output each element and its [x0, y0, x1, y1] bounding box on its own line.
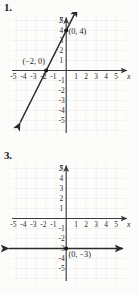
- y-tick-label: -1: [58, 76, 64, 85]
- problem-1: 1.: [0, 0, 139, 147]
- y-tick-label: 1: [60, 204, 64, 213]
- x-tick-label: -4: [20, 220, 26, 229]
- point-marker-x-intercept: [44, 68, 48, 72]
- y-tick-label: -2: [58, 86, 64, 95]
- y-tick-label: 2: [60, 194, 64, 203]
- x-tick-label: 3: [94, 72, 98, 81]
- y-tick-label: 4: [60, 26, 64, 35]
- x-tick-label: -5: [10, 72, 16, 81]
- problem-1-coordinate-plane: y x -5 -4 -3 -2 -1 1 2 3 4 5 5 4 3 2 1 -…: [0, 12, 139, 145]
- point-label-y-intercept: (0, −3): [69, 250, 92, 259]
- worksheet-page: 1.: [0, 0, 139, 295]
- x-tick-label: 1: [74, 72, 78, 81]
- y-tick-label: 5: [60, 16, 64, 25]
- y-tick-label: -2: [58, 234, 64, 243]
- x-tick-label: -1: [50, 220, 56, 229]
- y-tick-label: 2: [60, 46, 64, 55]
- y-tick-label: -3: [58, 96, 64, 105]
- x-tick-label: 4: [104, 220, 108, 229]
- y-tick-label: -4: [58, 106, 64, 115]
- point-label-y-intercept: (0, 4): [69, 27, 87, 36]
- y-tick-label: -5: [58, 264, 64, 273]
- x-tick-label: -3: [30, 72, 36, 81]
- problem-1-graph: y x -5 -4 -3 -2 -1 1 2 3 4 5 5 4 3 2 1 -…: [0, 12, 139, 145]
- x-tick-label: 3: [94, 220, 98, 229]
- x-tick-label: 4: [104, 72, 108, 81]
- x-tick-label: 1: [74, 220, 78, 229]
- y-tick-label: 3: [60, 184, 64, 193]
- point-label-x-intercept: (−2, 0): [23, 57, 46, 66]
- x-tick-label: 2: [84, 220, 88, 229]
- x-tick-label: -1: [50, 72, 56, 81]
- plot-background: [11, 163, 126, 283]
- x-tick-label: -2: [40, 220, 46, 229]
- x-axis-label: x: [126, 72, 131, 81]
- x-tick-label: 5: [114, 72, 118, 81]
- x-tick-label: 5: [114, 220, 118, 229]
- x-tick-label: -5: [10, 220, 16, 229]
- y-tick-label: 5: [60, 164, 64, 173]
- y-tick-label: -1: [58, 224, 64, 233]
- problem-3-graph: y x -5 -4 -3 -2 -1 1 2 3 4 5 5 4 3 2 1 -…: [0, 160, 139, 293]
- y-tick-label: -4: [58, 254, 64, 263]
- x-tick-label: -3: [30, 220, 36, 229]
- problem-3-coordinate-plane: y x -5 -4 -3 -2 -1 1 2 3 4 5 5 4 3 2 1 -…: [0, 160, 139, 293]
- y-tick-label: -5: [58, 116, 64, 125]
- problem-3: 3.: [0, 148, 139, 295]
- x-axis-label: x: [126, 220, 131, 229]
- x-tick-label: -4: [20, 72, 26, 81]
- y-tick-label: 4: [60, 174, 64, 183]
- x-tick-label: 2: [84, 72, 88, 81]
- y-tick-label: 1: [60, 56, 64, 65]
